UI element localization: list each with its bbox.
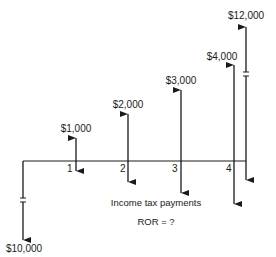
receipt-label-period-2: $2,000 <box>113 99 144 110</box>
ror-question: ROR = ? <box>137 216 174 227</box>
salvage-arrows <box>243 27 249 180</box>
salvage-label: $12,000 <box>228 10 264 21</box>
initial-investment-label: $10,000 <box>6 243 42 254</box>
period-label-4: 4 <box>226 163 232 174</box>
receipt-label-period-4: $4,000 <box>207 51 238 62</box>
period-label-2: 2 <box>120 163 126 174</box>
period-label-1: 1 <box>67 163 73 174</box>
income-tax-annotation: Income tax payments <box>111 197 201 208</box>
initial-investment-arrow <box>20 161 26 240</box>
period-label-3: 3 <box>172 163 178 174</box>
receipt-label-period-3: $3,000 <box>166 75 197 86</box>
receipt-label-period-1: $1,000 <box>61 123 92 134</box>
